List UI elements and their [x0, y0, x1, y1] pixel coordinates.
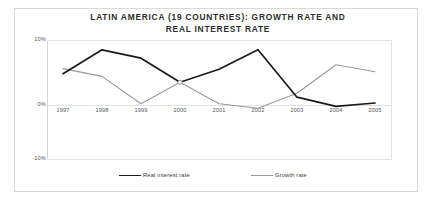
legend-label-real-interest-rate: Real interest rate	[143, 172, 190, 178]
legend-item-real-interest-rate: Real interest rate	[119, 172, 190, 178]
legend-item-growth-rate: Growth rate	[251, 172, 307, 178]
chart-title-line-2: REAL INTEREST RATE	[44, 24, 392, 36]
y-tick-label-10: 10%	[6, 36, 46, 42]
x-axis-labels: 1997 1998 1999 2000 2001 2002 2003 2004 …	[47, 107, 392, 119]
gridline-neg10	[47, 159, 392, 160]
y-tick-label-0: 0%	[6, 101, 46, 107]
legend-swatch-real-interest-rate	[119, 175, 141, 176]
gridline-10	[47, 40, 392, 41]
figure-frame	[14, 8, 418, 192]
x-tick-label-2000: 2000	[163, 107, 197, 113]
gridline-0	[47, 105, 392, 106]
x-tick-label-1997: 1997	[46, 107, 80, 113]
y-axis-labels: 10% 0% -10%	[0, 0, 46, 201]
x-tick-label-2002: 2002	[241, 107, 275, 113]
x-tick-label-2003: 2003	[280, 107, 314, 113]
legend-label-growth-rate: Growth rate	[275, 172, 307, 178]
x-tick-label-1998: 1998	[85, 107, 119, 113]
chart-screenshot: LATIN AMERICA (19 COUNTRIES): GROWTH RAT…	[0, 0, 432, 201]
plot-right-edge	[391, 40, 392, 160]
chart-legend: Real interest rate Growth rate	[47, 172, 392, 186]
legend-swatch-growth-rate	[251, 175, 273, 176]
x-tick-label-2004: 2004	[319, 107, 353, 113]
y-axis-line	[47, 40, 48, 160]
x-tick-label-2005: 2005	[358, 107, 392, 113]
x-tick-label-1999: 1999	[124, 107, 158, 113]
chart-title: LATIN AMERICA (19 COUNTRIES): GROWTH RAT…	[44, 12, 392, 35]
chart-title-line-1: LATIN AMERICA (19 COUNTRIES): GROWTH RAT…	[44, 12, 392, 24]
x-tick-label-2001: 2001	[202, 107, 236, 113]
y-tick-label-neg10: -10%	[6, 155, 46, 161]
